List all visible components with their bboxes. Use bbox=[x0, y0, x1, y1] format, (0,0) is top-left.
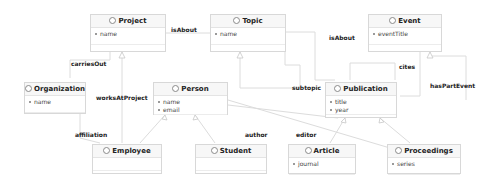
class-project[interactable]: Project name bbox=[90, 14, 166, 52]
attribute: title bbox=[330, 98, 392, 106]
class-header: Employee bbox=[93, 145, 161, 158]
attribute-icon bbox=[330, 109, 332, 111]
attribute-list: series bbox=[388, 158, 460, 175]
class-header: Person bbox=[154, 83, 227, 96]
class-icon bbox=[395, 147, 402, 154]
attribute-list: name bbox=[25, 96, 85, 113]
label-affiliation: affiliation bbox=[75, 131, 107, 138]
label-isabout-publication-topic: isAbout bbox=[329, 34, 355, 41]
class-icon bbox=[25, 85, 32, 92]
label-author: author bbox=[245, 131, 268, 138]
class-article[interactable]: Article journal bbox=[288, 144, 356, 174]
attribute: eventTitle bbox=[373, 30, 437, 38]
attribute: series bbox=[392, 160, 456, 168]
attribute-icon bbox=[392, 163, 394, 165]
attribute-list: name bbox=[211, 28, 285, 45]
attribute-icon bbox=[29, 101, 31, 103]
attribute-list: eventTitle bbox=[369, 28, 441, 45]
label-subtopic: subtopic bbox=[292, 84, 321, 91]
attribute-icon bbox=[158, 109, 160, 111]
class-header: Project bbox=[91, 15, 165, 28]
label-isabout-project-topic: isAbout bbox=[171, 26, 197, 33]
attribute-icon bbox=[215, 33, 217, 35]
attribute-list: title year bbox=[326, 96, 396, 115]
class-publication[interactable]: Publication title year bbox=[325, 82, 397, 118]
class-header: Article bbox=[289, 145, 355, 158]
class-header: Topic bbox=[211, 15, 285, 28]
attribute-icon bbox=[158, 101, 160, 103]
class-icon bbox=[233, 17, 240, 24]
attribute-icon bbox=[293, 163, 295, 165]
attribute: journal bbox=[293, 160, 351, 168]
class-organization[interactable]: Organization name bbox=[24, 82, 86, 114]
class-header: Event bbox=[369, 15, 441, 28]
class-icon bbox=[389, 17, 396, 24]
label-carriesout: carriesOut bbox=[71, 60, 106, 67]
class-icon bbox=[172, 85, 179, 92]
class-topic[interactable]: Topic name bbox=[210, 14, 286, 52]
class-proceedings[interactable]: Proceedings series bbox=[387, 144, 461, 174]
class-student[interactable]: Student bbox=[195, 144, 267, 174]
attribute-icon bbox=[95, 33, 97, 35]
class-icon bbox=[211, 147, 218, 154]
attribute-list: name email bbox=[154, 96, 227, 115]
attribute: name bbox=[215, 30, 281, 38]
attribute: name bbox=[158, 98, 223, 106]
class-header: Proceedings bbox=[388, 145, 460, 158]
attribute-list: name bbox=[91, 28, 165, 45]
attribute-list bbox=[93, 158, 161, 171]
attribute-icon bbox=[373, 33, 375, 35]
attribute-list: journal bbox=[289, 158, 355, 175]
attribute: year bbox=[330, 106, 392, 114]
attribute: name bbox=[29, 98, 81, 106]
attribute-list bbox=[196, 158, 266, 171]
attribute: email bbox=[158, 106, 223, 114]
label-haspartevent: hasPartEvent bbox=[430, 82, 475, 89]
class-header: Student bbox=[196, 145, 266, 158]
attribute: name bbox=[95, 30, 161, 38]
class-icon bbox=[334, 85, 341, 92]
class-header: Publication bbox=[326, 83, 396, 96]
class-event[interactable]: Event eventTitle bbox=[368, 14, 442, 52]
label-worksatproject: worksAtProject bbox=[96, 94, 148, 101]
class-icon bbox=[109, 17, 116, 24]
class-icon bbox=[103, 147, 110, 154]
class-person[interactable]: Person name email bbox=[153, 82, 228, 115]
label-editor: editor bbox=[296, 131, 316, 138]
class-icon bbox=[305, 147, 312, 154]
attribute-icon bbox=[330, 101, 332, 103]
label-cites: cites bbox=[399, 63, 415, 70]
class-employee[interactable]: Employee bbox=[92, 144, 162, 174]
class-header: Organization bbox=[25, 83, 85, 96]
